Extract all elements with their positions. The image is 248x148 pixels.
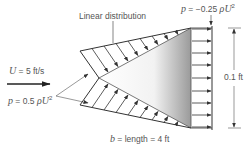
base-pressure-arrows [192, 29, 211, 127]
linear-distribution-label: Linear distribution [79, 12, 146, 21]
freestream-label: U = 5 ft/s [9, 66, 44, 76]
tip-pressure-label: p = 0.5 ρU2 [8, 95, 52, 106]
length-label: b = length = 4 ft [110, 134, 169, 144]
tip-pressure-leaders [56, 74, 88, 103]
top-pressure-label: p = −0.25 ρU2 [181, 3, 235, 14]
height-label: 0.1 ft [224, 73, 243, 82]
